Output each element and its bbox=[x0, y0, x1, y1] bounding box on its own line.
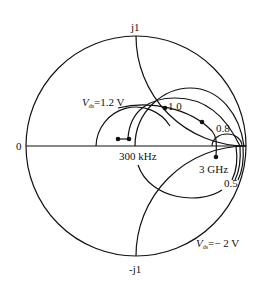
curve-vds-high bbox=[96, 107, 170, 146]
label-minus-j1: -j1 bbox=[129, 263, 141, 275]
label-j1: j1 bbox=[130, 21, 140, 33]
label-3ghz: 3 GHz bbox=[199, 163, 228, 175]
label-vds-high: Vds=1.2 V bbox=[82, 96, 125, 109]
label-300khz: 300 kHz bbox=[119, 150, 157, 162]
label-vds-low: Vds=− 2 V bbox=[196, 237, 239, 250]
edge-curve-1 bbox=[232, 146, 237, 180]
dot-0-9 bbox=[200, 120, 205, 125]
dot-300khz-b bbox=[127, 137, 132, 142]
label-0-5: 0.5 bbox=[224, 177, 238, 189]
smith-chart: j1 -j1 0 Vds=1.2 V Vds=− 2 V 300 kHz 3 G… bbox=[0, 0, 265, 291]
curve-s-param-2 bbox=[135, 88, 244, 146]
edge-curve-2 bbox=[235, 146, 240, 180]
label-zero: 0 bbox=[16, 140, 22, 152]
label-0-8: 0.8 bbox=[216, 122, 230, 134]
label-1-0: 1.0 bbox=[168, 100, 182, 112]
dot-1-0 bbox=[163, 106, 168, 111]
dot-3ghz bbox=[214, 155, 219, 160]
dot-300khz-a bbox=[116, 137, 121, 142]
